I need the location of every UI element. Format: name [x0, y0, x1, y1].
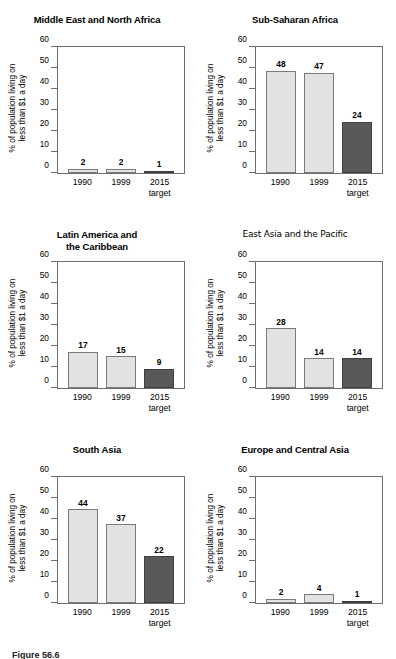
- x-axis-sublabel: target: [343, 403, 373, 413]
- x-axis-labels: 199019992015: [255, 607, 383, 617]
- y-axis-tick-label: 0: [242, 160, 247, 168]
- y-axis-tick-label: 20: [40, 333, 49, 341]
- chart-panel: East Asia and the Pacific% of population…: [198, 215, 396, 430]
- chart-panel: Middle East and North Africa% of populat…: [0, 0, 198, 215]
- y-axis-tick-label: 40: [238, 76, 247, 84]
- bar-series: 241: [256, 477, 382, 603]
- x-axis-tick-label: 1999: [106, 177, 136, 187]
- y-axis-label-line2: less than $1 a day: [216, 52, 226, 164]
- y-axis-tick: [51, 518, 58, 519]
- bar-value-label: 28: [276, 318, 285, 327]
- y-axis-tick: [51, 345, 58, 346]
- y-axis-tick-label: 40: [40, 291, 49, 299]
- bar-group: 17: [68, 262, 98, 388]
- y-axis-tick-label: 60: [40, 249, 49, 257]
- y-axis-tick-label: 20: [40, 548, 49, 556]
- y-axis-tick-label: 60: [40, 464, 49, 472]
- bar-value-label: 2: [119, 158, 124, 167]
- y-axis-label-line1: % of population living on: [206, 267, 216, 379]
- y-axis-tick: [249, 67, 256, 68]
- y-axis-tick: [51, 88, 58, 89]
- x-axis-tick-label: 2015: [343, 392, 373, 402]
- bar-value-label: 24: [352, 111, 361, 120]
- y-axis-tick-label: 30: [40, 312, 49, 320]
- bar: [106, 356, 136, 388]
- y-axis-tick-label: 20: [40, 118, 49, 126]
- bar: [342, 122, 372, 173]
- bar-group: 48: [266, 47, 296, 173]
- y-axis-tick-label: 0: [44, 375, 49, 383]
- y-axis-tick-label: 10: [238, 354, 247, 362]
- bar-series: 484724: [256, 47, 382, 173]
- x-axis-tick-label: 1990: [67, 392, 97, 402]
- y-axis-tick-label: 30: [40, 97, 49, 105]
- bar-group: 1: [342, 477, 372, 603]
- y-axis-tick-label: 50: [40, 270, 49, 278]
- bar-value-label: 4: [317, 584, 322, 593]
- bar-group: 14: [304, 262, 334, 388]
- x-axis-labels: 199019992015: [57, 177, 185, 187]
- bar-group: 1: [144, 47, 174, 173]
- y-axis-tick: [51, 581, 58, 582]
- y-axis-tick: [51, 67, 58, 68]
- bar-value-label: 47: [314, 62, 323, 71]
- y-axis-tick-label: 30: [238, 97, 247, 105]
- y-axis-tick: [51, 46, 58, 47]
- bar-group: 2: [266, 477, 296, 603]
- x-axis-labels: 199019992015: [57, 392, 185, 402]
- x-axis-tick-label: 1999: [304, 392, 334, 402]
- bar-value-label: 14: [314, 348, 323, 357]
- y-axis-label: % of population living onless than $1 a …: [8, 370, 22, 482]
- y-axis-tick-label: 50: [40, 485, 49, 493]
- bar-group: 9: [144, 262, 174, 388]
- chart-panel: Europe and Central Asia% of population l…: [198, 430, 396, 645]
- y-axis-tick-label: 60: [238, 464, 247, 472]
- y-axis-tick-label: 50: [238, 485, 247, 493]
- bar: [266, 599, 296, 603]
- y-axis-tick: [51, 109, 58, 110]
- bar: [144, 369, 174, 388]
- y-axis-label: % of population living onless than $1 a …: [206, 0, 220, 52]
- x-axis-tick-label: 1999: [106, 392, 136, 402]
- x-axis-tick-label: 1990: [67, 177, 97, 187]
- y-axis-tick-label: 30: [238, 527, 247, 535]
- panel-grid: Middle East and North Africa% of populat…: [0, 0, 396, 645]
- y-axis-tick: [249, 324, 256, 325]
- y-axis-tick-label: 0: [44, 590, 49, 598]
- y-axis-tick: [249, 303, 256, 304]
- bar-value-label: 22: [154, 546, 163, 555]
- panel-title: Sub-Saharan Africa: [198, 14, 392, 26]
- bar-value-label: 9: [157, 358, 162, 367]
- y-axis-tick: [51, 602, 58, 603]
- x-axis-sublabels: target: [255, 618, 383, 628]
- y-axis-label-line1: % of population living on: [206, 482, 216, 594]
- x-axis-tick-label: 1999: [304, 177, 334, 187]
- y-axis-tick: [51, 497, 58, 498]
- y-axis-tick-label: 0: [242, 590, 247, 598]
- bar: [106, 524, 136, 603]
- y-axis-tick: [249, 366, 256, 367]
- plot-area: 010203040506017159: [57, 261, 185, 389]
- x-axis-tick-label: 1999: [304, 607, 334, 617]
- bar-value-label: 15: [116, 346, 125, 355]
- bar: [304, 73, 334, 173]
- y-axis-tick: [51, 476, 58, 477]
- y-axis-tick-label: 60: [238, 249, 247, 257]
- y-axis-label: % of population living onless than $1 a …: [8, 0, 22, 52]
- y-axis-tick-label: 60: [238, 34, 247, 42]
- bar: [106, 169, 136, 173]
- panel-title: Latin America andthe Caribbean: [0, 229, 194, 252]
- plot-area: 0102030405060484724: [255, 46, 383, 174]
- plot-area: 0102030405060281414: [255, 261, 383, 389]
- y-axis-tick-label: 0: [242, 375, 247, 383]
- y-axis-tick: [249, 172, 256, 173]
- y-axis-tick: [249, 602, 256, 603]
- y-axis-tick: [249, 151, 256, 152]
- y-axis-tick: [249, 539, 256, 540]
- x-axis-sublabel: target: [145, 403, 175, 413]
- x-axis-sublabels: target: [255, 403, 383, 413]
- y-axis-tick: [51, 261, 58, 262]
- y-axis-label-line2: less than $1 a day: [18, 482, 28, 594]
- bar: [266, 328, 296, 388]
- figure-caption: Figure 56.6: [12, 650, 60, 659]
